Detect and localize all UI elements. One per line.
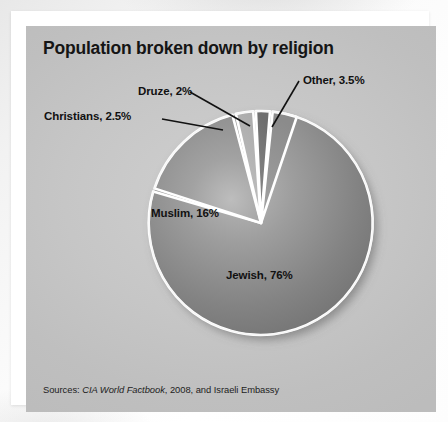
leader-line-druze (190, 92, 250, 126)
leader-line-christians (162, 119, 223, 130)
slice-label-other: Other, 3.5% (303, 74, 365, 86)
pie-outer-rim (149, 111, 373, 335)
pie-chart (26, 26, 436, 412)
pie-chart-svg (26, 26, 436, 412)
pie-slice-druze (256, 111, 270, 223)
slice-label-druze: Druze, 2% (138, 85, 192, 97)
slice-label-muslim: Muslim, 16% (151, 207, 219, 219)
pie-slice-christians (236, 111, 261, 223)
source-suffix: , 2008, and Israeli Embassy (165, 384, 279, 395)
slice-label-christians: Christians, 2.5% (44, 110, 131, 122)
source-prefix: Sources: (43, 384, 82, 395)
chart-card-frame: Population broken down by religion (11, 11, 429, 405)
chart-panel: Population broken down by religion (26, 26, 436, 412)
chart-screenshot: Population broken down by religion (0, 0, 448, 422)
pie-shadow-group (149, 111, 373, 335)
pie-slice-other (261, 112, 297, 223)
source-note: Sources: CIA World Factbook, 2008, and I… (43, 384, 279, 395)
pie-slice-jewish (149, 114, 373, 335)
leader-line-other (272, 81, 299, 127)
slice-label-jewish: Jewish, 76% (226, 269, 293, 281)
page-title: Population broken down by religion (43, 38, 343, 60)
source-publication: CIA World Factbook (82, 384, 165, 395)
